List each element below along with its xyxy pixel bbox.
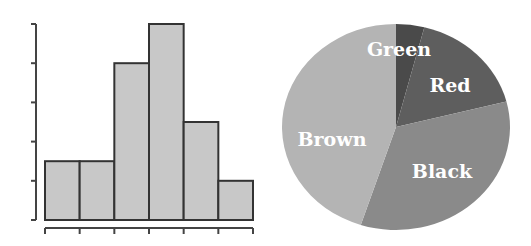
y-axis (31, 24, 36, 220)
histogram-bar (80, 161, 115, 220)
histogram-bars (45, 24, 253, 220)
x-axis (45, 228, 253, 234)
histogram-bar (184, 122, 219, 220)
pie-chart: GreenRedBlackBrown (270, 0, 531, 246)
histogram-bar (114, 63, 149, 220)
pie-label-brown: Brown (298, 128, 367, 150)
pie-label-red: Red (429, 74, 470, 96)
pie-label-green: Green (367, 38, 431, 60)
pie-label-black: Black (412, 160, 473, 182)
histogram-bar (149, 24, 184, 220)
histogram-chart (0, 0, 270, 246)
histogram-bar (218, 181, 253, 220)
histogram-bar (45, 161, 80, 220)
